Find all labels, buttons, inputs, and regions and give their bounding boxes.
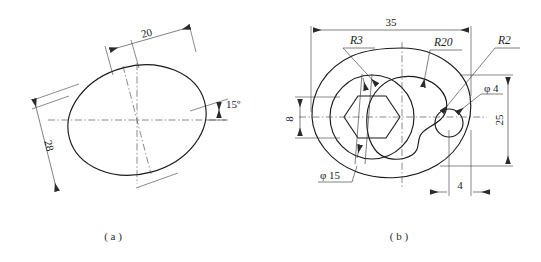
leader-phi15-label: φ 15	[320, 169, 341, 181]
figure-b-caption: ( b )	[390, 230, 409, 243]
leader-r3-label: R3	[349, 34, 363, 46]
dimension-20: 20	[105, 24, 196, 75]
dimension-angle-15: 15º	[190, 98, 241, 120]
leader-phi4: φ 4	[457, 82, 503, 113]
dimension-angle-15-label: 15º	[226, 98, 241, 110]
figure-b-outer-outline	[312, 48, 471, 178]
leader-r20: R20	[423, 36, 462, 87]
drawing-sheet: 20 28 15º ( a )	[0, 0, 541, 262]
dimension-28: 28	[32, 84, 178, 191]
dimension-4-label: 4	[457, 179, 463, 191]
leader-r2-label: R2	[497, 34, 511, 46]
dimension-25-label: 25	[493, 114, 505, 126]
figure-a-caption: ( a )	[104, 230, 122, 243]
dimension-25: 25	[440, 75, 513, 166]
figure-b-cam-contour	[367, 76, 447, 159]
dimension-4: 4	[430, 130, 490, 196]
dimension-35-label: 35	[386, 16, 398, 28]
figure-a-drawing: 20 28 15º ( a )	[0, 0, 541, 262]
leader-phi4-label: φ 4	[484, 82, 499, 94]
dimension-28-label: 28	[42, 139, 56, 153]
figure-a-centerlines	[48, 63, 226, 184]
dimension-8-label: 8	[283, 116, 295, 122]
leader-r20-label: R20	[433, 36, 453, 48]
